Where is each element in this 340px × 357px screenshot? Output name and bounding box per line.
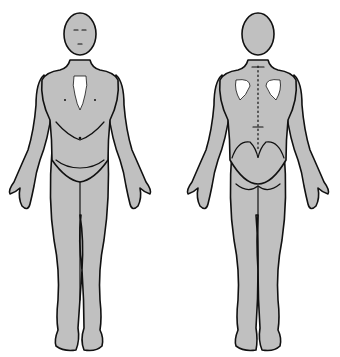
front-head <box>64 13 96 55</box>
back-head <box>242 13 274 55</box>
front-figure <box>10 13 151 351</box>
back-figure <box>188 13 329 351</box>
body-chart-diagram: .b { fill: #c0c0c0; stroke: #111; stroke… <box>0 0 340 357</box>
